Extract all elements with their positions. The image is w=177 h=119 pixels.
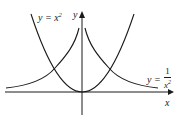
parabola-label-exp: 2: [59, 12, 62, 18]
reciprocal-label-exp: 2: [168, 79, 171, 85]
reciprocal-label-lhs: y =: [147, 75, 161, 85]
parabola-label: y = x2: [38, 12, 62, 23]
y-axis-label: y: [73, 10, 77, 20]
reciprocal-label-fraction: 1 x2: [164, 67, 171, 90]
graph: [0, 0, 177, 119]
parabola-label-y: y: [38, 12, 42, 23]
reciprocal-square-left-branch: [6, 28, 79, 88]
y-axis-arrow-icon: [79, 11, 85, 18]
parabola-label-eq: = x: [45, 12, 59, 23]
reciprocal-label-numerator: 1: [164, 67, 171, 78]
x-axis-label: x: [165, 98, 169, 108]
reciprocal-label-denominator: x2: [164, 78, 171, 90]
